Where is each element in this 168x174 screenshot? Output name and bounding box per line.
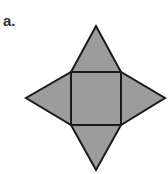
square-base: [71, 72, 121, 125]
triangle-right: [121, 72, 165, 125]
triangle-bottom: [71, 125, 121, 170]
triangle-top: [71, 26, 121, 72]
pyramid-net: [26, 26, 165, 170]
triangle-left: [26, 72, 71, 125]
pyramid-net-diagram: [0, 0, 168, 174]
